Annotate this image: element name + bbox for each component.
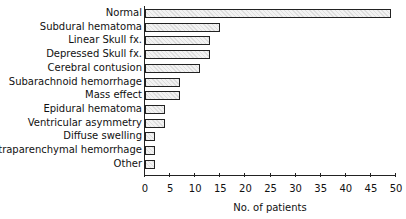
category-label: Cerebral contusion — [48, 62, 142, 74]
category-label: Ventricular asymmetry — [28, 117, 142, 129]
x-tick — [270, 173, 271, 177]
category-label: Epidural hematoma — [43, 103, 142, 115]
category-label: Other — [114, 158, 142, 170]
bar — [145, 78, 180, 87]
bar — [145, 50, 210, 59]
category-label: Subdural hematoma — [40, 21, 142, 33]
category-label: Mass effect — [85, 89, 142, 101]
x-tick-label: 40 — [339, 183, 352, 194]
x-tick — [219, 173, 220, 177]
x-tick — [169, 173, 170, 177]
bar — [145, 146, 155, 155]
bar — [145, 105, 165, 114]
x-tick — [144, 173, 145, 177]
x-tick-label: 45 — [365, 183, 378, 194]
category-label: Intraparenchymal hemorrhage — [0, 144, 142, 156]
bar — [145, 23, 220, 32]
bar — [145, 160, 155, 169]
bar — [145, 64, 200, 73]
category-label: Normal — [106, 7, 142, 19]
bar-chart: NormalSubdural hematomaLinear Skull fx.D… — [0, 0, 406, 219]
bar — [145, 132, 155, 141]
bar — [145, 9, 391, 18]
x-tick — [395, 173, 396, 177]
x-axis-label: No. of patients — [233, 202, 306, 213]
x-tick — [295, 173, 296, 177]
x-tick — [244, 173, 245, 177]
x-tick-label: 5 — [167, 183, 173, 194]
x-tick-label: 25 — [264, 183, 277, 194]
x-tick-label: 20 — [239, 183, 252, 194]
category-label: Linear Skull fx. — [68, 34, 142, 46]
bar — [145, 91, 180, 100]
x-tick-label: 0 — [142, 183, 148, 194]
bar — [145, 119, 165, 128]
x-tick — [370, 173, 371, 177]
x-tick-label: 15 — [214, 183, 227, 194]
x-tick — [320, 173, 321, 177]
x-tick — [194, 173, 195, 177]
bar — [145, 36, 210, 45]
category-label: Depressed Skull fx. — [46, 48, 142, 60]
category-label: Subarachnoid hemorrhage — [9, 76, 142, 88]
x-tick-label: 35 — [314, 183, 327, 194]
x-tick-label: 10 — [189, 183, 202, 194]
x-tick — [345, 173, 346, 177]
x-tick-label: 30 — [289, 183, 302, 194]
x-tick-label: 50 — [390, 183, 403, 194]
category-label: Diffuse swelling — [63, 130, 142, 142]
